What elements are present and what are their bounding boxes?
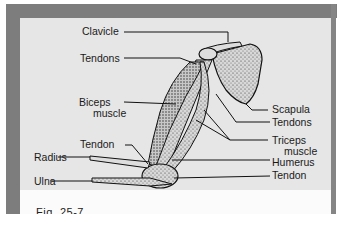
label-biceps-muscle: muscle (93, 108, 126, 119)
label-clavicle: Clavicle (82, 26, 119, 37)
triceps-leader (196, 110, 268, 140)
tendon-right-leader (174, 176, 270, 178)
label-humerus: Humerus (272, 157, 315, 168)
label-tendon-left: Tendon (80, 139, 114, 150)
label-tendons-top: Tendons (80, 53, 120, 64)
scapula-leader (246, 104, 268, 110)
label-tendon-right: Tendon (272, 170, 306, 181)
label-scapula: Scapula (272, 104, 310, 115)
label-ulna: Ulna (34, 176, 56, 187)
figure-caption: Fig. 25-7 (36, 206, 84, 214)
clavicle-leader (124, 32, 228, 42)
tendons-top-leader (124, 58, 196, 64)
radius-bone (90, 156, 150, 168)
label-radius: Radius (34, 152, 67, 163)
humerus-head (199, 48, 217, 60)
label-tendons-right: Tendons (272, 117, 312, 128)
scapula-bone (212, 44, 262, 104)
